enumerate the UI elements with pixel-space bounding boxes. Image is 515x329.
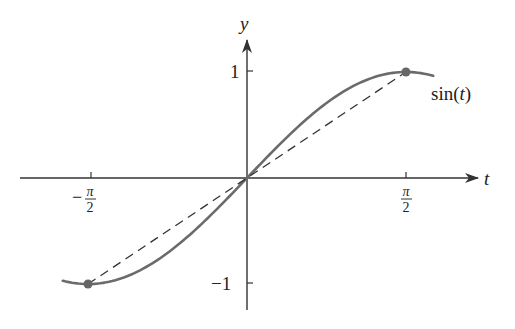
point-pos-half-pi [401,68,410,77]
y-tick-label-neg-one: −1 [211,273,231,294]
x-tick-label-neg-half-pi: − π 2 [72,184,96,215]
fraction-denominator: 2 [403,200,410,215]
sine-chart: t y 1 −1 − π 2 π 2 sin(t) [0,0,515,329]
curve-label-prefix: sin( [431,83,460,105]
curve-label-suffix: ) [465,83,471,105]
curve-label: sin(t) [431,83,471,105]
fraction-numerator: π [402,184,410,199]
fraction-numerator: π [86,184,94,199]
minus-sign: − [72,187,82,207]
y-tick-label-one: 1 [230,61,240,82]
fraction-denominator: 2 [87,200,94,215]
t-axis-label: t [484,168,490,189]
x-tick-label-pos-half-pi: π 2 [401,184,412,215]
y-axis-label: y [238,13,249,34]
point-neg-half-pi [84,280,93,289]
